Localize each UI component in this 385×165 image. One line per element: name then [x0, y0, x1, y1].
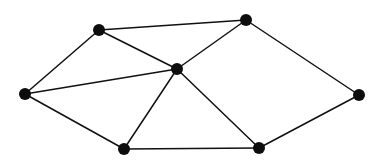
graph-svg: [0, 0, 385, 165]
graph-right-vertex: [353, 89, 365, 101]
graph-top-right-vertex: [240, 14, 252, 26]
graph-edge-left-to-center: [25, 69, 177, 94]
graph-edge-center-to-bottom-left: [124, 69, 177, 149]
graph-left-vertex: [19, 88, 31, 100]
edge-layer: [25, 20, 359, 149]
graph-center-vertex: [171, 63, 183, 75]
graph-edge-top-right-to-center: [177, 20, 246, 69]
graph-edge-bottom-left-to-bottom-right: [124, 148, 259, 149]
graph-edge-top-left-to-top-right: [99, 20, 246, 30]
graph-edge-left-to-bottom-left: [25, 94, 124, 149]
graph-edge-bottom-right-to-right: [259, 95, 359, 148]
vertex-layer: [19, 14, 365, 155]
graph-edge-top-left-to-center: [99, 30, 177, 69]
graph-bottom-left-vertex: [118, 143, 130, 155]
graph-bottom-right-vertex: [253, 142, 265, 154]
graph-edge-top-right-to-right: [246, 20, 359, 95]
graph-edge-center-to-bottom-right: [177, 69, 259, 148]
graph-top-left-vertex: [93, 24, 105, 36]
graph-diagram-canvas: [0, 0, 385, 165]
